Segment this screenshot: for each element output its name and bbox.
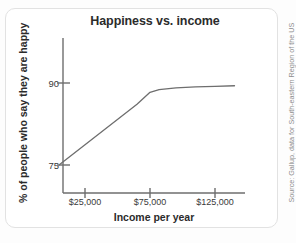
figure-container: Happiness vs. income % of people who say… [0, 0, 296, 243]
source-note: Source: Gallup, data for South-eastern R… [287, 33, 296, 203]
happiness-data-line [59, 86, 235, 165]
plot-area [0, 0, 296, 243]
